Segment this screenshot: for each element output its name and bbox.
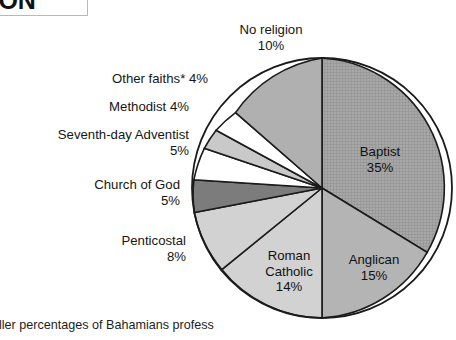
- chart-footnote: aller percentages of Bahamians profess: [0, 318, 214, 333]
- pie-label-anglican: Anglican 15%: [332, 252, 416, 283]
- pie-label-baptist: Baptist 35%: [338, 144, 422, 175]
- pie-label-penticostal: Penticostal 8%: [46, 233, 186, 264]
- pie-label-methodist: Methodist 4%: [28, 99, 189, 115]
- pie-label-other-faiths: Other faiths* 4%: [28, 71, 208, 87]
- pie-label-church-of-god: Church of God 5%: [28, 177, 180, 208]
- pie-label-roman-catholic: Roman Catholic 14%: [248, 248, 330, 295]
- pie-label-seventh-day-adventist: Seventh-day Adventist 5%: [8, 127, 189, 158]
- pie-chart: No religion 10% Other faiths* 4% Methodi…: [0, 0, 456, 340]
- pie-label-no-religion: No religion 10%: [196, 22, 346, 53]
